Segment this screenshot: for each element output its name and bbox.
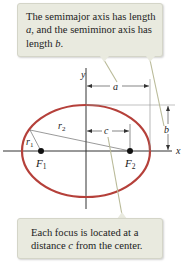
b-arrow-top	[166, 106, 170, 111]
focus-distance-callout: Each focus is located at a distance c fr…	[17, 218, 163, 259]
focus-2-point	[127, 148, 133, 154]
focus-1-label: F1	[35, 157, 47, 171]
callout-bottom-text-2: from the center.	[73, 240, 142, 251]
callout-top-text-2: , and the semiminor axis has length	[26, 24, 152, 48]
a-label: a	[113, 81, 118, 92]
focus-2-label: F2	[124, 157, 136, 171]
y-axis-label: y	[80, 69, 86, 80]
r2-line	[30, 130, 130, 151]
b-label: b	[164, 124, 169, 135]
a-arrow-left	[87, 84, 92, 88]
x-axis-label: x	[175, 145, 181, 156]
b-arrow-bottom	[166, 145, 170, 150]
callout-top-text-1: The semimajor axis has length	[26, 11, 155, 22]
c-arrow-right	[124, 129, 129, 133]
r1-label: r1	[26, 136, 34, 149]
semimajor-semiminor-callout: The semimajor axis has length a, and the…	[17, 3, 163, 57]
leader-line-a	[104, 60, 117, 82]
a-arrow-right	[144, 84, 149, 88]
callout-top-text-3: .	[60, 38, 63, 49]
leader-line-b	[150, 60, 164, 126]
focus-1-point	[38, 148, 44, 154]
c-label: c	[104, 125, 109, 136]
c-arrow-left	[87, 129, 92, 133]
r2-label: r2	[58, 120, 66, 133]
